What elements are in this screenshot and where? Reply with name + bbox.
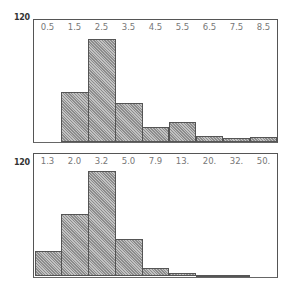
x-tick-label: 1.3: [34, 156, 61, 166]
histogram-bar: [142, 268, 169, 277]
x-tick-label: 20.: [196, 156, 223, 166]
histogram-bar: [223, 275, 250, 277]
x-tick-label: 5.0: [115, 156, 142, 166]
histogram-bar: [115, 239, 142, 276]
histogram-bar: [35, 251, 62, 277]
x-tick-label: 2.0: [61, 156, 88, 166]
bottom-histogram: 120 1.32.03.25.07.913.20.32.50.: [0, 0, 290, 292]
histogram-bar: [169, 273, 196, 277]
x-tick-label: 7.9: [142, 156, 169, 166]
x-tick-label: 32.: [223, 156, 250, 166]
x-tick-label: 13.: [169, 156, 196, 166]
histogram-bar: [196, 275, 223, 277]
histogram-bar: [88, 171, 115, 276]
x-tick-label: 3.2: [88, 156, 115, 166]
x-tick-label: 50.: [250, 156, 277, 166]
histogram-bar: [61, 214, 88, 277]
y-tick-label-120: 120: [14, 158, 30, 167]
x-tick-labels: 1.32.03.25.07.913.20.32.50.: [34, 156, 277, 166]
